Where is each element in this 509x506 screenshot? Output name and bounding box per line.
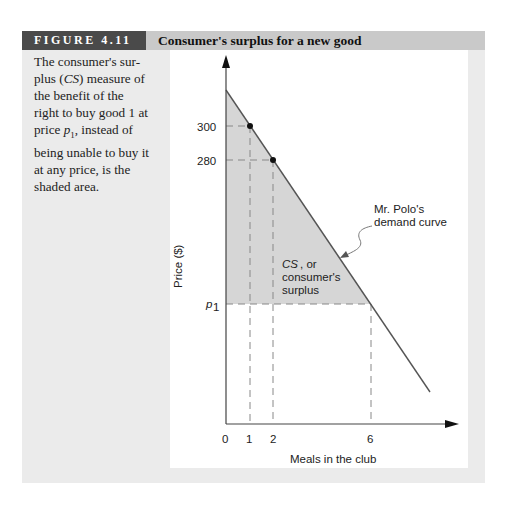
y-tick-300: 300 — [197, 121, 216, 133]
x-tick-0: 0 — [222, 433, 228, 445]
cs-label-1: , or — [300, 258, 317, 270]
x-axis-arrow-icon — [445, 420, 459, 428]
y-tick-280: 280 — [197, 155, 216, 167]
annotation-arrowhead-icon — [340, 251, 349, 258]
point-280 — [270, 157, 276, 163]
y-axis-label: Price ($) — [172, 244, 184, 288]
point-300 — [247, 123, 253, 129]
x-tick-1: 1 — [246, 433, 252, 445]
demand-curve-label-1: Mr. Polo's — [374, 203, 424, 215]
demand-curve-label-2: demand curve — [374, 216, 447, 228]
demand-chart: 300 280 p 1 0 1 2 6 Meals in the club Pr… — [0, 0, 509, 506]
x-tick-2: 2 — [270, 433, 276, 445]
y-tick-p1: p — [205, 298, 213, 310]
x-axis-label: Meals in the club — [290, 453, 376, 465]
cs-label-italic: CS — [282, 258, 298, 270]
annotation-arrow — [344, 226, 372, 256]
cs-label-2: consumer's — [282, 271, 341, 283]
cs-label-3: surplus — [282, 284, 319, 296]
y-axis-arrow-icon — [222, 55, 230, 68]
y-tick-p1-sub: 1 — [213, 301, 219, 313]
x-tick-6: 6 — [367, 433, 373, 445]
